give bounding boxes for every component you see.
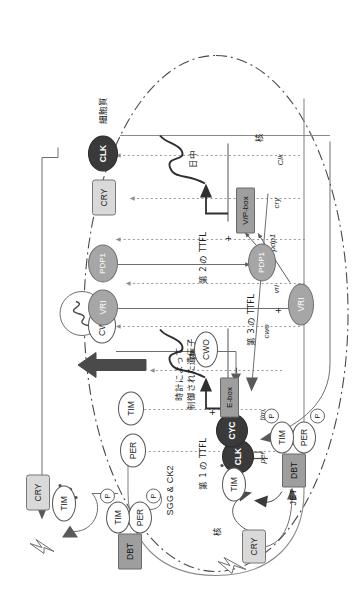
promoter-label: E-box — [226, 387, 234, 408]
protein-label: TIM — [278, 430, 287, 445]
protein-label: TIM — [127, 401, 136, 416]
phosphate-label: P — [314, 413, 322, 418]
protein-label: CRY — [34, 483, 43, 501]
protein-label: PER — [129, 441, 138, 458]
protein-label: VRI — [99, 300, 108, 314]
protein-cry-nucleus: CRY — [242, 529, 266, 563]
gene-label-clk: Clk — [276, 153, 285, 165]
loop-label-third: 第 3 の TTFL — [244, 294, 256, 345]
phosphate-label: P — [268, 413, 276, 418]
protein-label: PER — [300, 428, 309, 445]
protein-dbt-nucleus: DBT — [282, 453, 306, 487]
phosphate-p-nucleus-1: P — [264, 408, 279, 423]
sign-minus-ebox: − — [230, 366, 242, 373]
sign-plus-ebox: + — [206, 408, 218, 415]
phosphate-p-cyto-2: P — [146, 488, 161, 503]
protein-label: CWO — [202, 339, 211, 360]
protein-per-cyto: PER — [120, 433, 146, 467]
promoter-label: V/P-box — [242, 196, 250, 224]
protein-label: PDP1 — [99, 253, 107, 274]
protein-label: PDP1 — [258, 252, 266, 273]
jet-arrow — [254, 491, 282, 507]
protein-vri-cyto: VRI — [88, 289, 118, 325]
sign-plus-vpbox: + — [222, 234, 234, 241]
protein-tim-cyto-degraded: TIM — [52, 485, 76, 521]
protein-cwo-nucleus: CWO — [194, 331, 218, 367]
protein-cyc-nucleus: CYC — [216, 413, 248, 447]
vpbox-transcription-unit — [160, 135, 228, 221]
protein-label: DBT — [126, 543, 135, 560]
protein-jet-label: JET — [288, 488, 298, 505]
protein-vri-nucleus: VRI — [288, 283, 314, 325]
protein-cry-cyto: CRY — [92, 179, 116, 215]
gene-label-cry: cry — [272, 197, 281, 208]
phosphate-label: P — [150, 493, 158, 498]
gene-label-cwo: cwo — [262, 324, 271, 338]
clock-controlled-genes-label-line1: 時計によって — [172, 346, 184, 400]
protein-label: CYC — [228, 421, 237, 439]
phase-label-day: 日中 — [186, 149, 198, 167]
protein-tim-nucleus-degraded: TIM — [222, 467, 246, 501]
phosphate-label: P — [104, 493, 112, 498]
phosphate-p-cyto-1: P — [100, 488, 115, 503]
loop-label-second: 第 2 の TTFL — [196, 232, 208, 283]
protein-per-nucleus: PER — [292, 421, 316, 453]
cytoplasm-label: 細胞質 — [96, 96, 108, 123]
protein-pdp1-nucleus: PDP1 — [248, 243, 276, 281]
kinases-label: SGG & CK2 — [165, 465, 175, 515]
promoter-vp-box: V/P-box — [236, 187, 255, 233]
protein-dbt-cyto: DBT — [118, 533, 142, 569]
promoter-e-box: E-box — [220, 377, 239, 417]
protein-label: TIM — [230, 477, 239, 492]
protein-cry-light-cyto: CRY — [26, 474, 50, 510]
protein-tim-nucleus: TIM — [270, 421, 294, 453]
protein-label: CLK — [234, 447, 243, 464]
light-bolt-icon-top — [30, 539, 54, 553]
protein-per-complex-cyto: PER — [128, 501, 152, 533]
protein-pdp1-cyto: PDP1 — [88, 244, 118, 282]
cry-entry-line — [42, 147, 58, 513]
protein-label: CRY — [250, 537, 259, 555]
gene-label-vri: vri — [272, 285, 281, 293]
protein-label: VRI — [297, 297, 306, 311]
sign-plus-feedback: + — [272, 306, 284, 313]
protein-label: CLK — [99, 144, 108, 161]
figure-canvas: TIM PER TIM CWO VRI PDP1 CRY CLK CRY — [0, 0, 352, 613]
protein-label: TIM — [60, 496, 69, 511]
loop-label-first: 第 1 の TTFL — [196, 438, 208, 489]
sign-minus-repression: | — [252, 450, 263, 453]
protein-tim-complex-cyto: TIM — [106, 501, 130, 533]
protein-label: CRY — [100, 188, 109, 206]
protein-label: PER — [136, 508, 145, 525]
output-arrow — [78, 352, 146, 377]
protein-clk-cyto: CLK — [88, 135, 118, 171]
nucleus-label-left: 核 — [210, 526, 222, 535]
phosphate-p-nucleus-2: P — [310, 408, 325, 423]
nucleus-label-right: 核 — [252, 132, 264, 141]
protein-label: DBT — [290, 462, 299, 479]
protein-label: TIM — [114, 510, 123, 525]
diagram-stage: TIM PER TIM CWO VRI PDP1 CRY CLK CRY — [0, 0, 352, 613]
protein-tim-cyto: TIM — [118, 391, 144, 425]
